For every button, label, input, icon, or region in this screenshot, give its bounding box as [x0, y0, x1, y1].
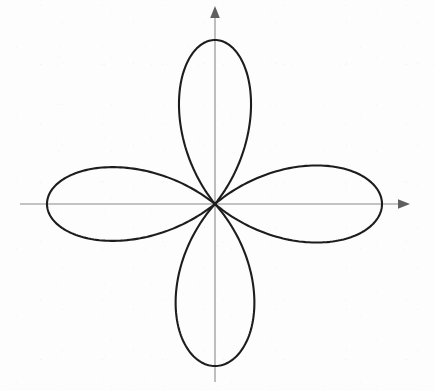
rose-curve-figure — [0, 0, 434, 391]
y-axis-arrowhead-icon — [210, 6, 220, 18]
polar-rose-plot — [0, 0, 434, 391]
x-axis-arrowhead-icon — [398, 199, 410, 209]
